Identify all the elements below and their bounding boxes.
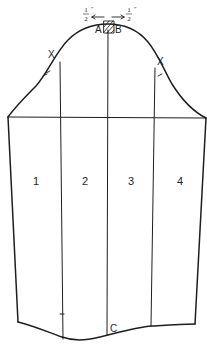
svg-text:1: 1: [127, 6, 131, 14]
point-label-x-left: X: [48, 49, 55, 60]
svg-text:": ": [91, 6, 94, 12]
slash-line-right: [151, 68, 155, 326]
panel-label-3: 3: [128, 175, 134, 187]
svg-text:2: 2: [127, 15, 131, 23]
panel-label-2: 2: [82, 175, 88, 187]
sleeve-cap-curve: [8, 24, 206, 118]
bicep-line: [8, 117, 206, 118]
wrist-hem-curve: [18, 322, 195, 340]
sleeve-pattern-diagram: 1 2 " 1 2 " A B X X C 1 2 3 4: [0, 0, 207, 347]
svg-text:1: 1: [84, 6, 88, 14]
svg-text:2: 2: [84, 15, 88, 23]
fraction-right: 1 2 ": [126, 6, 137, 23]
point-label-x-right: X: [157, 56, 164, 67]
right-underarm-seam: [195, 118, 206, 324]
fraction-left: 1 2 ": [83, 6, 94, 23]
center-line: [107, 30, 108, 335]
svg-text:": ": [134, 6, 137, 12]
point-label-a: A: [95, 24, 102, 35]
point-label-c: C: [110, 323, 117, 334]
panel-label-1: 1: [33, 175, 39, 187]
left-underarm-seam: [8, 117, 18, 322]
notch-right: [158, 74, 162, 76]
slash-line-left: [60, 62, 63, 339]
point-label-b: B: [115, 24, 122, 35]
panel-label-4: 4: [177, 175, 183, 187]
